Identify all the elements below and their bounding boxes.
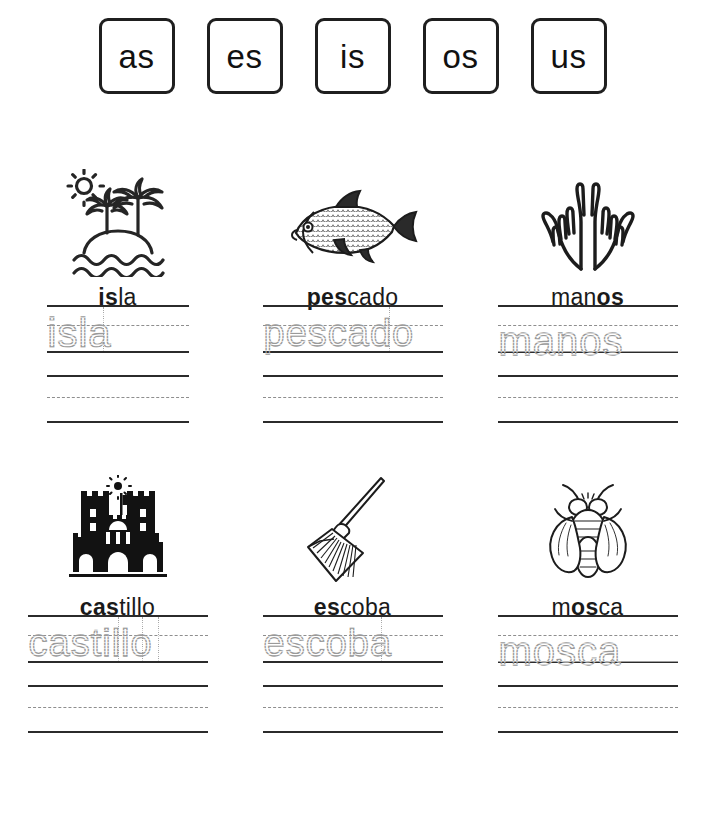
- syllable-box-es[interactable]: es: [207, 18, 283, 94]
- trace-word-escoba[interactable]: escoba: [264, 623, 393, 663]
- syllable-bar: as es is os us: [0, 18, 705, 94]
- writing-line-top: [263, 615, 443, 617]
- syllable-box-is[interactable]: is: [315, 18, 391, 94]
- syllable-label: is: [340, 40, 365, 73]
- broom-icon: [300, 475, 406, 587]
- writing-line-baseline-blank: [498, 731, 678, 733]
- writing-line-top: [498, 615, 678, 617]
- fly-icon: [536, 475, 640, 587]
- worksheet-row: castillo castillo: [0, 475, 705, 785]
- worksheet-row: isla isla: [0, 165, 705, 475]
- writing-line-baseline-blank: [28, 731, 208, 733]
- syllable-label: es: [227, 40, 263, 73]
- writing-line-top-blank: [263, 685, 443, 687]
- writing-line-middle-dashed-blank: [498, 397, 678, 398]
- island-palm-trees-icon: [62, 165, 174, 277]
- writing-line-baseline-blank: [263, 421, 443, 423]
- syllable-box-as[interactable]: as: [99, 18, 175, 94]
- writing-line-top-blank: [498, 375, 678, 377]
- syllable-label: as: [119, 40, 155, 73]
- worksheet-cell-isla: isla isla: [0, 165, 235, 475]
- trace-word-isla[interactable]: isla: [48, 313, 112, 353]
- worksheet-cell-manos: manos manos: [470, 165, 705, 475]
- trace-word-mosca[interactable]: mosca: [499, 631, 622, 671]
- writing-line-baseline-blank: [47, 421, 189, 423]
- trace-word-castillo[interactable]: castillo: [29, 623, 153, 663]
- writing-line-middle-dashed-blank: [263, 707, 443, 708]
- writing-line-top: [263, 305, 443, 307]
- writing-line-middle-dashed-blank: [263, 397, 443, 398]
- worksheet-cell-mosca: mosca mosca: [470, 475, 705, 785]
- open-hands-icon: [533, 165, 643, 277]
- writing-line-middle-dashed-blank: [498, 707, 678, 708]
- syllable-box-us[interactable]: us: [531, 18, 607, 94]
- writing-line-top-blank: [498, 685, 678, 687]
- letter-guide-tick: [158, 617, 159, 661]
- syllable-label: os: [443, 40, 479, 73]
- writing-line-top: [498, 305, 678, 307]
- trace-word-pescado[interactable]: pescado: [264, 313, 415, 353]
- writing-line-baseline-blank: [498, 421, 678, 423]
- writing-line-top-blank: [47, 375, 189, 377]
- worksheet-cell-escoba: escoba escoba: [235, 475, 470, 785]
- writing-line-baseline-blank: [263, 731, 443, 733]
- worksheet-grid: isla isla: [0, 165, 705, 785]
- writing-line-top-blank: [28, 685, 208, 687]
- writing-line-top: [47, 305, 189, 307]
- writing-line-top-blank: [263, 375, 443, 377]
- worksheet-cell-pescado: pescado pescado: [235, 165, 470, 475]
- syllable-box-os[interactable]: os: [423, 18, 499, 94]
- trace-word-manos[interactable]: manos: [499, 321, 624, 361]
- fish-icon: [278, 165, 428, 277]
- syllable-label: us: [551, 40, 587, 73]
- castle-icon: [59, 475, 177, 587]
- worksheet-cell-castillo: castillo castillo: [0, 475, 235, 785]
- writing-line-middle-dashed-blank: [47, 397, 189, 398]
- writing-line-middle-dashed-blank: [28, 707, 208, 708]
